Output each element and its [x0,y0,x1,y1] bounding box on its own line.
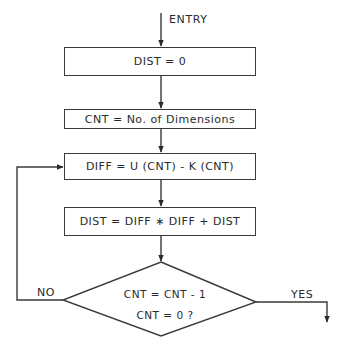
no-label: NO [37,286,55,299]
step-text: CNT = No. of Dimensions [85,113,235,126]
step-init-cnt: CNT = No. of Dimensions [64,109,256,129]
yes-label: YES [291,288,313,301]
decision-line1: CNT = CNT - 1 [100,288,230,300]
no-loop-line [17,167,63,300]
yes-exit-line [256,302,327,322]
step-accumulate-dist: DIST = DIFF ∗ DIFF + DIST [64,207,256,236]
step-init-dist: DIST = 0 [64,47,256,76]
step-text: DIFF = U (CNT) - K (CNT) [86,160,234,173]
step-compute-diff: DIFF = U (CNT) - K (CNT) [64,153,256,180]
decision-line2: CNT = 0 ? [100,309,230,321]
step-text: DIST = DIFF ∗ DIFF + DIST [80,215,241,228]
entry-label: ENTRY [169,13,208,26]
step-text: DIST = 0 [134,55,187,68]
